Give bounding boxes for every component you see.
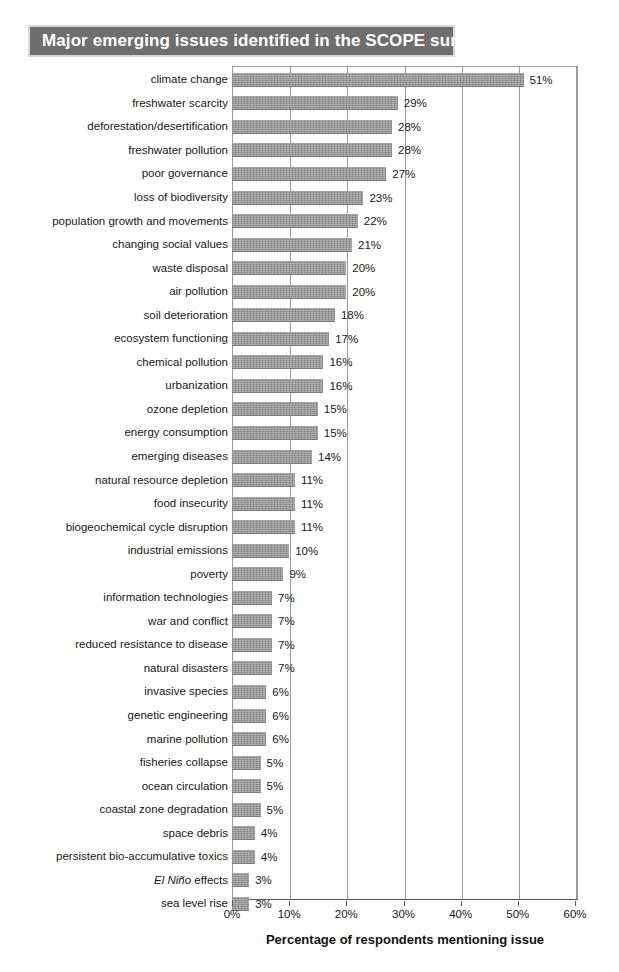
bar-value-label: 5%	[267, 757, 284, 769]
bar	[232, 756, 261, 770]
bar-value-label: 4%	[261, 851, 278, 863]
bar-value-label: 4%	[261, 827, 278, 839]
bar-category-label: marine pollution	[18, 733, 228, 746]
bar	[232, 167, 386, 181]
bar	[232, 850, 255, 864]
bar-track: 11%	[232, 468, 323, 492]
bar-row: space debris4%	[0, 822, 619, 846]
bar-category-label: climate change	[18, 73, 228, 86]
x-tick-label: 0%	[224, 908, 241, 920]
bar-category-label: El Niño effects	[18, 874, 228, 887]
bar-category-label: sea level rise	[18, 897, 228, 910]
bar-value-label: 27%	[392, 168, 415, 180]
bar	[232, 709, 266, 723]
bar-track: 6%	[232, 704, 289, 728]
bar-category-label: freshwater scarcity	[18, 97, 228, 110]
bar-row: ozone depletion15%	[0, 398, 619, 422]
bar-row: poor governance27%	[0, 162, 619, 186]
bar-row: loss of biodiversity23%	[0, 186, 619, 210]
bar-value-label: 16%	[329, 380, 352, 392]
bar-track: 17%	[232, 327, 358, 351]
bar	[232, 614, 272, 628]
bar-value-label: 7%	[278, 592, 295, 604]
bar	[232, 261, 346, 275]
bar-row: biogeochemical cycle disruption11%	[0, 515, 619, 539]
bar-track: 18%	[232, 303, 364, 327]
bar-track: 16%	[232, 374, 352, 398]
bar-row: freshwater pollution28%	[0, 139, 619, 163]
bar-row: fisheries collapse5%	[0, 751, 619, 775]
bar-value-label: 7%	[278, 639, 295, 651]
bar-value-label: 15%	[324, 403, 347, 415]
bar-category-label: natural disasters	[18, 662, 228, 675]
bar-track: 27%	[232, 162, 415, 186]
x-tick-mark	[346, 901, 347, 906]
bar	[232, 591, 272, 605]
bar-row: persistent bio-accumulative toxics4%	[0, 845, 619, 869]
bar-value-label: 5%	[267, 780, 284, 792]
bar-row: ecosystem functioning17%	[0, 327, 619, 351]
bar-row: information technologies7%	[0, 586, 619, 610]
bar-category-label: genetic engineering	[18, 709, 228, 722]
bar-category-label: reduced resistance to disease	[18, 638, 228, 651]
bar-track: 6%	[232, 680, 289, 704]
bar-category-label: poor governance	[18, 167, 228, 180]
bar-track: 29%	[232, 92, 427, 116]
bar	[232, 238, 352, 252]
page-title: Major emerging issues identified in the …	[30, 31, 486, 51]
chart-title-banner: Major emerging issues identified in the …	[28, 25, 455, 57]
bar-value-label: 14%	[318, 451, 341, 463]
bar	[232, 191, 363, 205]
x-tick-mark	[404, 901, 405, 906]
bar	[232, 473, 295, 487]
bar-value-label: 10%	[295, 545, 318, 557]
bar-row: genetic engineering6%	[0, 704, 619, 728]
bar-row: El Niño effects3%	[0, 869, 619, 893]
bar-track: 15%	[232, 421, 347, 445]
bar	[232, 355, 323, 369]
bar-category-label: ozone depletion	[18, 403, 228, 416]
bar-category-label: waste disposal	[18, 262, 228, 275]
bar	[232, 497, 295, 511]
bar	[232, 567, 283, 581]
x-tick-label: 40%	[449, 908, 472, 920]
bar-value-label: 6%	[272, 733, 289, 745]
x-tick-mark	[575, 901, 576, 906]
bar-category-label: space debris	[18, 827, 228, 840]
bar-row: poverty9%	[0, 562, 619, 586]
bar-category-label: persistent bio-accumulative toxics	[18, 850, 228, 863]
bar-row: emerging diseases14%	[0, 445, 619, 469]
bar-row: reduced resistance to disease7%	[0, 633, 619, 657]
bar-track: 10%	[232, 539, 318, 563]
bar-value-label: 15%	[324, 427, 347, 439]
bar	[232, 96, 398, 110]
bar-track: 14%	[232, 445, 341, 469]
bar-category-label: information technologies	[18, 591, 228, 604]
bar-value-label: 20%	[352, 262, 375, 274]
bar-row: urbanization16%	[0, 374, 619, 398]
bar-category-label: emerging diseases	[18, 450, 228, 463]
bar-rows: climate change51%freshwater scarcity29%d…	[0, 68, 619, 916]
bar-row: climate change51%	[0, 68, 619, 92]
bar-value-label: 7%	[278, 662, 295, 674]
bar-track: 5%	[232, 751, 283, 775]
bar-value-label: 9%	[289, 568, 306, 580]
bar-category-label: urbanization	[18, 379, 228, 392]
bar-category-label: invasive species	[18, 685, 228, 698]
bar-track: 7%	[232, 610, 295, 634]
bar	[232, 779, 261, 793]
bar	[232, 73, 524, 87]
x-tick-mark	[289, 901, 290, 906]
bar-track: 20%	[232, 256, 375, 280]
bar-track: 22%	[232, 209, 387, 233]
x-tick-mark	[232, 901, 233, 906]
bar-row: invasive species6%	[0, 680, 619, 704]
bar-value-label: 7%	[278, 615, 295, 627]
bar-category-label: ocean circulation	[18, 780, 228, 793]
bar-row: freshwater scarcity29%	[0, 92, 619, 116]
bar-value-label: 21%	[358, 239, 381, 251]
bar	[232, 544, 289, 558]
bar-row: coastal zone degradation5%	[0, 798, 619, 822]
bar-row: industrial emissions10%	[0, 539, 619, 563]
bar-category-label: ecosystem functioning	[18, 332, 228, 345]
